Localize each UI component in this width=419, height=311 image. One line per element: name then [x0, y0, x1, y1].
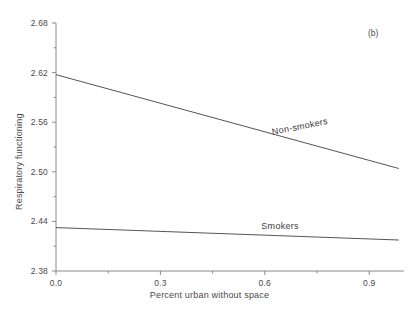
x-axis-title: Percent urban without space: [0, 290, 419, 300]
y-tick-label: 2.44: [8, 216, 48, 226]
series-lines-group: [56, 75, 399, 240]
x-tick-label: 0.9: [349, 278, 389, 288]
x-tick-label: 0.0: [36, 278, 76, 288]
panel-label: (b): [368, 28, 378, 38]
plot-canvas: [0, 0, 419, 311]
y-axis-title: Respiratory functioning: [14, 113, 24, 210]
series-line: [56, 228, 399, 240]
y-axis-tick-marks: [52, 23, 56, 271]
x-axis-tick-marks: [56, 271, 369, 275]
x-tick-label: 0.3: [140, 278, 180, 288]
y-tick-label: 2.62: [8, 68, 48, 78]
chart-figure: 2.382.442.502.562.622.68 0.00.30.60.9 No…: [0, 0, 419, 311]
y-tick-label: 2.68: [8, 18, 48, 28]
x-tick-label: 0.6: [245, 278, 285, 288]
series-line: [56, 75, 399, 169]
series-label: Smokers: [261, 221, 299, 231]
y-tick-label: 2.38: [8, 266, 48, 276]
